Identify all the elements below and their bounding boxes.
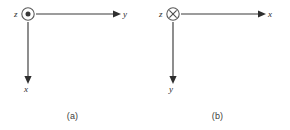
- axis-label-horizontal-b: x: [268, 10, 272, 19]
- panel-caption-a: (a): [0, 111, 145, 121]
- figure-container: z y x (a) z x y (b): [0, 0, 290, 130]
- axis-label-z-b: z: [159, 10, 163, 19]
- horizontal-axis-arrowhead-b: [258, 10, 266, 17]
- horizontal-axis-arrowhead-a: [113, 10, 121, 17]
- axis-label-vertical-a: x: [24, 85, 28, 94]
- vertical-axis-arrowhead-b: [169, 76, 176, 84]
- panel-caption-b: (b): [145, 111, 290, 121]
- out-of-page-dot-icon: [26, 12, 31, 17]
- axis-label-horizontal-a: y: [123, 10, 127, 19]
- axis-label-vertical-b: y: [169, 85, 173, 94]
- diagram-panel-a: z y x (a): [0, 0, 145, 130]
- vertical-axis-arrowhead-a: [24, 76, 31, 84]
- axis-label-z-a: z: [14, 10, 18, 19]
- diagram-panel-b: z x y (b): [145, 0, 290, 130]
